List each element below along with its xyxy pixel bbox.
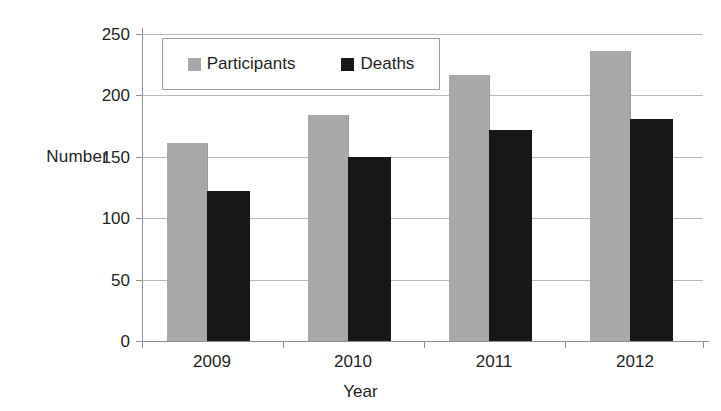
bar-chart: Number 250 200 150 100 50 0 200 (0, 0, 721, 411)
x-tick-mark-4 (703, 341, 704, 348)
x-tick-mark-0 (142, 341, 143, 348)
legend: Participants Deaths (162, 38, 440, 90)
bar-deaths-2011 (489, 130, 532, 341)
x-category-label-2010: 2010 (308, 352, 398, 372)
legend-label-participants: Participants (207, 54, 296, 74)
y-tick-label-200: 200 (92, 87, 130, 104)
gridline-250 (142, 34, 703, 35)
legend-item-participants: Participants (188, 54, 296, 74)
x-tick-mark-3 (565, 341, 566, 348)
x-axis-title: Year (0, 382, 721, 402)
y-tick-label-50: 50 (92, 272, 130, 289)
legend-item-deaths: Deaths (341, 54, 414, 74)
x-category-label-2012: 2012 (590, 352, 680, 372)
x-category-label-2009: 2009 (167, 352, 257, 372)
x-category-label-2011: 2011 (449, 352, 539, 372)
y-tick-label-250: 250 (92, 26, 130, 43)
bar-deaths-2012 (630, 119, 673, 341)
bar-participants-2012 (590, 51, 631, 341)
bar-participants-2010 (308, 115, 349, 341)
bar-participants-2011 (449, 75, 490, 341)
x-axis-line (136, 341, 709, 342)
x-tick-mark-1 (283, 341, 284, 348)
gray-square-icon (188, 58, 201, 71)
bar-participants-2009 (167, 143, 208, 341)
black-square-icon (341, 58, 354, 71)
legend-label-deaths: Deaths (360, 54, 414, 74)
y-tick-label-150: 150 (92, 149, 130, 166)
bar-deaths-2009 (207, 191, 250, 341)
y-tick-label-0: 0 (92, 333, 130, 350)
y-tick-label-100: 100 (92, 210, 130, 227)
legend-items: Participants Deaths (163, 39, 439, 89)
bar-deaths-2010 (348, 157, 391, 341)
x-tick-mark-2 (424, 341, 425, 348)
